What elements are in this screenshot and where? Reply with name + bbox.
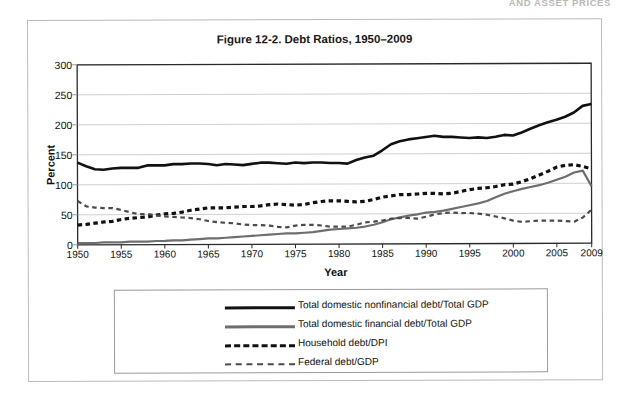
series-line bbox=[77, 171, 591, 243]
gridline bbox=[77, 153, 591, 155]
x-axis-tick-label: 1950 bbox=[67, 249, 89, 260]
legend-swatch bbox=[225, 306, 295, 309]
x-axis-tick-labels: 1950195519601965197019751980198519901995… bbox=[29, 247, 602, 265]
gridline bbox=[77, 123, 591, 125]
series-line bbox=[77, 104, 591, 170]
x-axis-tick-label: 1955 bbox=[110, 249, 132, 260]
legend-label: Total domestic financial debt/Total GDP bbox=[298, 318, 472, 330]
x-axis-tick-label: 1965 bbox=[197, 248, 219, 259]
x-axis-tick-label: 1970 bbox=[241, 248, 263, 259]
x-axis-tick-label: 1980 bbox=[328, 248, 350, 259]
x-axis-tick-label: 1975 bbox=[284, 248, 306, 259]
gridline bbox=[77, 93, 591, 95]
x-axis-tick-label: 1960 bbox=[154, 249, 176, 260]
legend-swatch bbox=[225, 344, 295, 347]
plot-area: Percent 050100150200250300 1950195519601… bbox=[28, 19, 602, 381]
gridline bbox=[78, 213, 592, 215]
legend-swatch bbox=[225, 363, 295, 365]
x-axis-tick-label: 2000 bbox=[502, 247, 524, 258]
figure-box: Figure 12-2. Debt Ratios, 1950–2009 Perc… bbox=[27, 18, 603, 382]
x-axis-tick-label: 1990 bbox=[415, 248, 437, 259]
legend-label: Total domestic nonfinancial debt/Total G… bbox=[298, 299, 489, 311]
legend-label: Federal debt/GDP bbox=[298, 356, 379, 367]
x-axis-tick-label: 2009 bbox=[581, 247, 603, 258]
legend-swatch bbox=[225, 325, 295, 328]
legend-item: Total domestic financial debt/Total GDP bbox=[115, 315, 547, 336]
x-axis-tick-label: 1995 bbox=[459, 248, 481, 259]
gridline bbox=[78, 183, 592, 185]
legend-item: Total domestic nonfinancial debt/Total G… bbox=[115, 296, 547, 317]
series-line bbox=[77, 165, 591, 225]
legend-label: Household debt/DPI bbox=[298, 337, 388, 348]
legend-item: Household debt/DPI bbox=[115, 334, 547, 355]
running-header: AND ASSET PRICES bbox=[509, 0, 611, 6]
legend-item: Federal debt/GDP bbox=[115, 353, 547, 374]
x-axis-tick-label: 1985 bbox=[371, 248, 393, 259]
x-axis-title: Year bbox=[78, 265, 594, 279]
x-axis-tick-label: 2005 bbox=[546, 247, 568, 258]
legend: Total domestic nonfinancial debt/Total G… bbox=[114, 288, 548, 373]
